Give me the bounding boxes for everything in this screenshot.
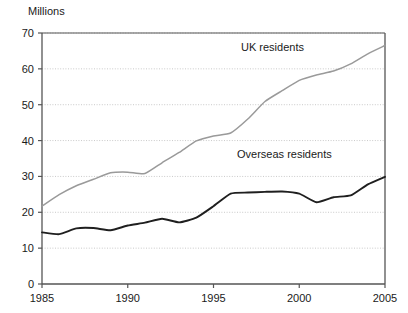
x-axis-tick-label-2000: 2000 [277, 292, 321, 304]
y-axis-tick-label-0: 0 [4, 278, 34, 290]
x-axis-tick-label-1985: 1985 [20, 292, 64, 304]
y-axis-tick-label-20: 20 [4, 206, 34, 218]
y-axis-tick-label-30: 30 [4, 170, 34, 182]
y-axis-tick-label-70: 70 [4, 27, 34, 39]
y-axis-tick-label-40: 40 [4, 135, 34, 147]
series-paths [42, 46, 385, 235]
x-axis-tick-label-2005: 2005 [363, 292, 407, 304]
series-label-uk-residents: UK residents [241, 41, 304, 54]
x-axis-tick-label-1995: 1995 [192, 292, 236, 304]
gridlines [42, 33, 385, 248]
y-axis-tick-label-10: 10 [4, 242, 34, 254]
series-line-uk-residents [42, 46, 385, 207]
series-label-overseas-residents: Overseas residents [237, 148, 332, 161]
y-axis-tick-label-60: 60 [4, 63, 34, 75]
series-line-overseas-residents [42, 177, 385, 234]
plot-canvas [0, 0, 408, 313]
x-axis-tick-label-1990: 1990 [106, 292, 150, 304]
line-chart: Millions 010203040506070 198519901995200… [0, 0, 408, 313]
y-axis-tick-label-50: 50 [4, 99, 34, 111]
